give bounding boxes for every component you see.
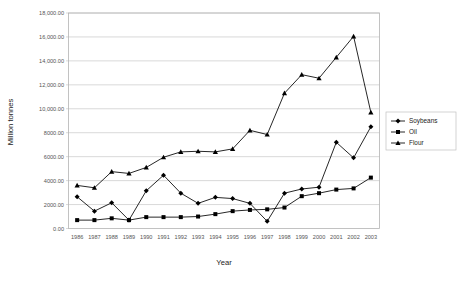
data-point (92, 218, 96, 222)
x-axis-tick-label: 1994 (209, 234, 221, 240)
x-axis-title: Year (216, 258, 232, 267)
line-chart: 0.002000.004000.006000.008000.0010,000.0… (0, 0, 462, 282)
x-axis-tick-label: 1999 (296, 234, 308, 240)
plot-area-border (69, 13, 380, 229)
x-axis-tick-label: 1988 (105, 234, 117, 240)
data-point (196, 215, 200, 219)
data-point (369, 176, 373, 180)
data-point (127, 218, 131, 222)
data-point (162, 215, 166, 219)
data-point (230, 196, 235, 201)
y-axis-tick-label: 18,000.00 (39, 10, 64, 16)
data-point (317, 191, 321, 195)
data-point (265, 207, 269, 211)
data-point (109, 169, 114, 174)
x-axis-tick-label: 2001 (330, 234, 342, 240)
x-axis-tick-label: 1997 (261, 234, 273, 240)
x-axis-tick-label: 1990 (140, 234, 152, 240)
data-point (352, 186, 356, 190)
y-axis-tick-label: 8000.00 (44, 130, 64, 136)
x-axis-tick-label: 1996 (244, 234, 256, 240)
y-axis-tick-label: 10,000.00 (39, 106, 64, 112)
y-axis-tick-label: 16,000.00 (39, 34, 64, 40)
series-soybeans (75, 124, 374, 224)
y-axis-tick-label: 12,000.00 (39, 82, 64, 88)
x-axis-tick-label: 2000 (313, 234, 325, 240)
data-point (368, 124, 373, 129)
data-point (300, 194, 304, 198)
x-axis-tick-label: 1986 (71, 234, 83, 240)
x-axis-tick-label: 2002 (347, 234, 359, 240)
y-axis-tick-labels: 0.002000.004000.006000.008000.0010,000.0… (39, 10, 64, 232)
data-point (317, 185, 322, 190)
chart-legend: SoybeansOilFlour (386, 112, 456, 150)
data-point (351, 34, 356, 39)
y-axis-title: Million tonnes (6, 99, 15, 146)
data-point (231, 209, 235, 213)
data-point (282, 206, 286, 210)
series-flour (75, 34, 374, 190)
data-point (248, 208, 252, 212)
legend-label: Flour (409, 139, 424, 146)
data-point (368, 110, 373, 115)
x-axis-tick-label: 1987 (88, 234, 100, 240)
y-axis-tick-label: 14,000.00 (39, 58, 64, 64)
data-point (110, 216, 114, 220)
x-axis-tick-label: 1993 (192, 234, 204, 240)
data-point (282, 191, 287, 196)
data-point (196, 201, 201, 206)
data-point (213, 212, 217, 216)
chart-container: 0.002000.004000.006000.008000.0010,000.0… (0, 0, 462, 282)
x-axis-tick-label: 2003 (365, 234, 377, 240)
data-point (144, 165, 149, 170)
data-point (213, 195, 218, 200)
y-axis-tick-label: 6000.00 (44, 154, 64, 160)
x-axis-tick-label: 1991 (157, 234, 169, 240)
data-point (179, 215, 183, 219)
series-line (77, 178, 371, 221)
data-point (144, 215, 148, 219)
gridlines (66, 13, 380, 229)
x-axis-tick-labels: 1986198719881989199019911992199319941995… (71, 234, 377, 240)
legend-marker (396, 130, 400, 134)
series-oil (75, 176, 373, 223)
data-point (75, 183, 80, 188)
y-axis-tick-label: 4000.00 (44, 178, 64, 184)
series-line (77, 36, 371, 187)
series-line (77, 127, 371, 222)
x-axis-tick-label: 1989 (123, 234, 135, 240)
data-point (299, 72, 304, 77)
data-series (75, 34, 374, 224)
x-axis-tick-label: 1992 (175, 234, 187, 240)
y-axis-tick-label: 2000.00 (44, 202, 64, 208)
legend-label: Oil (409, 128, 417, 135)
data-point (334, 188, 338, 192)
data-point (75, 218, 79, 222)
legend-label: Soybeans (409, 117, 437, 125)
data-point (247, 128, 252, 133)
x-axis-tick-label: 1998 (278, 234, 290, 240)
x-axis-tick-label: 1995 (226, 234, 238, 240)
y-axis-tick-label: 0.00 (53, 226, 64, 232)
data-point (299, 186, 304, 191)
